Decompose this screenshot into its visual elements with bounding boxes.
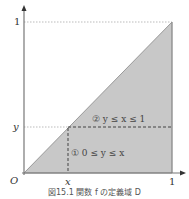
y-axis-arrow-icon [22,5,27,11]
x-axis-arrow-icon [180,171,186,176]
region2-label: ② y ≤ x ≤ 1 [92,114,145,124]
figure-caption: 図15.1 関数 f の定義域 D [0,186,189,197]
y-tick-one-label: 1 [14,16,20,27]
y-tick-var-label: y [12,121,19,132]
region1-label: ① 0 ≤ y ≤ x [71,148,124,158]
domain-diagram: 1 y O x 1 ② y ≤ x ≤ 1 ① 0 ≤ y ≤ x [0,0,189,199]
origin-label: O [10,175,18,186]
